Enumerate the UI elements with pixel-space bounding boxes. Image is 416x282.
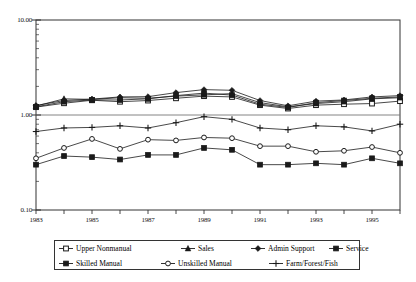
legend-item[interactable]: Unskilled Manual xyxy=(161,256,232,271)
data-point-marker xyxy=(34,104,39,109)
chart-legend: Upper NonmanualSalesAdmin SupportService… xyxy=(54,240,360,270)
data-point-marker xyxy=(342,162,347,167)
data-point-marker xyxy=(61,125,67,131)
data-point-marker xyxy=(118,146,123,151)
data-point-marker xyxy=(230,147,235,152)
data-point-marker xyxy=(229,116,235,122)
data-point-marker xyxy=(118,157,123,162)
plus-diamond-icon xyxy=(251,244,265,253)
data-point-marker xyxy=(370,101,375,106)
y-tick-label: 10.00 xyxy=(0,16,32,24)
x-tick-label: 1993 xyxy=(298,216,334,224)
data-point-marker xyxy=(90,137,95,142)
data-point-marker xyxy=(341,124,347,130)
data-point-marker xyxy=(314,149,319,154)
data-point-marker xyxy=(64,246,69,251)
legend-item[interactable]: Service xyxy=(329,241,369,256)
data-point-marker xyxy=(230,136,235,141)
series-admin-support xyxy=(33,87,403,109)
data-point-marker xyxy=(33,128,39,134)
data-point-marker xyxy=(398,150,403,155)
legend-item-label: Unskilled Manual xyxy=(178,259,232,268)
data-point-marker xyxy=(64,261,69,266)
legend-item[interactable]: Admin Support xyxy=(251,241,314,256)
filled-square-icon xyxy=(59,259,73,268)
data-point-marker xyxy=(273,260,279,266)
data-point-marker xyxy=(89,124,95,130)
legend-item[interactable]: Upper Nonmanual xyxy=(59,241,132,256)
filled-square-icon xyxy=(329,244,343,253)
x-tick-label: 1989 xyxy=(186,216,222,224)
legend-row-1: Upper NonmanualSalesAdmin SupportService xyxy=(55,241,359,256)
data-point-marker xyxy=(257,125,263,131)
data-point-marker xyxy=(174,93,179,98)
data-point-marker xyxy=(314,100,319,105)
y-tick-label: 1.00 xyxy=(0,111,32,119)
legend-item-label: Upper Nonmanual xyxy=(76,244,132,253)
series-line xyxy=(36,117,400,132)
data-point-marker xyxy=(90,98,95,103)
data-point-marker xyxy=(334,246,339,251)
data-point-marker xyxy=(174,153,179,158)
x-tick-label: 1991 xyxy=(242,216,278,224)
data-point-marker xyxy=(202,91,207,96)
data-point-marker xyxy=(202,135,207,140)
data-point-marker xyxy=(174,138,179,143)
legend-item-label: Farm/Forest/Fish xyxy=(286,259,338,268)
legend-item-label: Admin Support xyxy=(268,244,314,253)
data-point-marker xyxy=(146,137,151,142)
filled-triangle-icon xyxy=(181,244,195,253)
data-point-marker xyxy=(397,121,403,127)
plus-icon xyxy=(269,259,283,268)
chart-figure: 0.101.0010.00 19831985198719891991199319… xyxy=(0,0,416,282)
data-point-marker xyxy=(62,154,67,159)
x-tick-label: 1995 xyxy=(354,216,390,224)
legend-item[interactable]: Farm/Forest/Fish xyxy=(269,256,338,271)
data-point-marker xyxy=(34,156,39,161)
x-tick-label: 1985 xyxy=(74,216,110,224)
data-point-marker xyxy=(258,144,263,149)
data-point-marker xyxy=(370,145,375,150)
y-tick-label: 0.10 xyxy=(0,206,32,214)
data-point-marker xyxy=(369,128,375,134)
data-point-marker xyxy=(285,127,291,133)
data-point-marker xyxy=(314,161,319,166)
data-point-marker xyxy=(313,123,319,129)
data-point-marker xyxy=(201,113,207,119)
legend-row-2: Skilled ManualUnskilled ManualFarm/Fores… xyxy=(55,256,359,271)
open-circle-icon xyxy=(161,259,175,268)
data-point-marker xyxy=(118,98,123,103)
data-point-marker xyxy=(286,162,291,167)
data-point-marker xyxy=(146,96,151,101)
legend-item-label: Skilled Manual xyxy=(76,259,122,268)
legend-item[interactable]: Sales xyxy=(181,241,214,256)
x-tick-label: 1983 xyxy=(18,216,54,224)
legend-item-label: Sales xyxy=(198,244,214,253)
data-point-marker xyxy=(370,156,375,161)
data-point-marker xyxy=(342,98,347,103)
data-point-marker xyxy=(230,93,235,98)
data-point-marker xyxy=(202,146,207,151)
data-point-marker xyxy=(173,119,179,125)
series-upper-nonmanual xyxy=(34,94,403,111)
data-point-marker xyxy=(258,102,263,107)
open-square-icon xyxy=(59,244,73,253)
data-point-marker xyxy=(90,155,95,160)
data-point-marker xyxy=(398,161,403,166)
data-point-marker xyxy=(34,162,39,167)
data-point-marker xyxy=(62,99,67,104)
data-point-marker xyxy=(342,148,347,153)
legend-item-label: Service xyxy=(346,244,369,253)
data-point-marker xyxy=(166,261,171,266)
data-point-marker xyxy=(255,246,261,252)
data-point-marker xyxy=(117,123,123,129)
series-service xyxy=(34,91,403,110)
data-point-marker xyxy=(258,162,263,167)
data-point-marker xyxy=(286,105,291,110)
data-point-marker xyxy=(398,95,403,100)
data-point-marker xyxy=(145,125,151,131)
data-point-marker xyxy=(370,96,375,101)
data-point-marker xyxy=(146,153,151,158)
series-skilled-manual xyxy=(34,146,403,168)
legend-item[interactable]: Skilled Manual xyxy=(59,256,122,271)
